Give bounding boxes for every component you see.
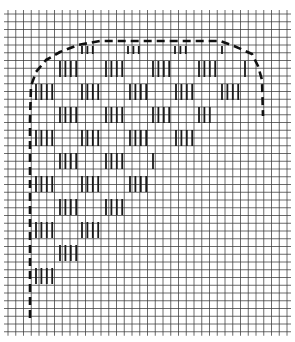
- tally-group: [36, 268, 52, 284]
- tally-group: [36, 222, 52, 238]
- tally-marks: [36, 46, 245, 284]
- tally-group: [82, 222, 98, 238]
- grid-diagram: [0, 0, 295, 342]
